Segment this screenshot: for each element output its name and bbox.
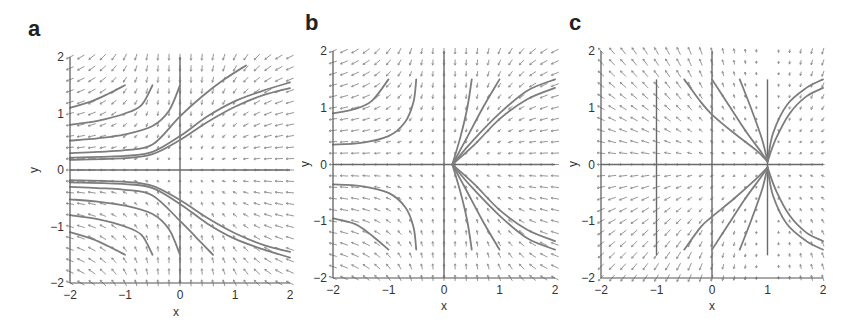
- field-arrow: [386, 253, 390, 258]
- y-tick-label: 1: [320, 101, 327, 115]
- field-arrow: [276, 55, 283, 59]
- y-tick-label: −2: [581, 271, 595, 285]
- field-arrow: [620, 230, 626, 235]
- field-arrow: [363, 72, 370, 76]
- trajectory-curve: [452, 165, 499, 250]
- field-arrow: [112, 269, 116, 275]
- field-arrow: [375, 264, 381, 269]
- field-arrow: [363, 49, 369, 54]
- field-arrow: [89, 258, 96, 262]
- panel-b: b x y −2−1012−2−1012: [298, 10, 559, 313]
- field-arrow: [666, 263, 670, 270]
- field-arrow: [244, 77, 249, 82]
- y-tick-label: −2: [313, 271, 327, 285]
- field-arrow: [676, 94, 681, 100]
- field-arrow: [100, 89, 106, 93]
- field-arrow: [519, 253, 524, 258]
- field-arrow: [100, 77, 106, 82]
- field-arrow: [363, 60, 370, 64]
- y-tick-label: 0: [588, 158, 595, 172]
- field-arrow: [244, 89, 249, 93]
- field-arrow: [530, 48, 536, 53]
- field-arrow: [244, 54, 248, 60]
- field-arrow: [265, 258, 272, 262]
- field-arrow: [519, 60, 524, 65]
- trajectory-curve: [712, 79, 768, 161]
- field-arrow: [631, 82, 637, 88]
- field-arrow: [642, 105, 648, 110]
- field-arrow: [265, 55, 271, 60]
- panel-label: b: [305, 10, 318, 35]
- field-arrow: [643, 48, 647, 55]
- y-tick-label: 0: [57, 163, 64, 177]
- y-tick-label: 2: [588, 44, 595, 58]
- x-tick-label: −2: [63, 288, 77, 302]
- y-tick-label: 0: [320, 158, 327, 172]
- field-arrow: [631, 94, 637, 99]
- field-arrow: [676, 219, 681, 224]
- field-arrow: [620, 94, 626, 99]
- panel-c: c x y −2−1012−2−1012: [566, 10, 827, 313]
- field-arrow: [519, 71, 524, 76]
- field-arrow: [89, 269, 96, 274]
- field-arrow: [676, 241, 681, 248]
- field-arrow: [609, 253, 615, 259]
- field-arrow: [620, 219, 627, 223]
- panel-label: c: [569, 10, 581, 35]
- field-arrow: [654, 71, 659, 77]
- field-arrow: [112, 54, 116, 60]
- x-axis-label: x: [441, 299, 447, 313]
- field-arrow: [642, 219, 648, 224]
- field-arrow: [631, 241, 637, 247]
- field-arrow: [265, 269, 272, 274]
- x-tick-label: 0: [709, 283, 716, 297]
- trajectory-curve: [452, 88, 555, 165]
- field-arrow: [676, 105, 681, 110]
- trajectory-curve: [70, 85, 125, 108]
- y-tick-label: −1: [581, 214, 595, 228]
- field-arrow: [519, 48, 524, 53]
- field-arrow: [254, 269, 260, 274]
- panel-a: a x y −2−1012−2−1012: [27, 16, 294, 319]
- field-arrow: [620, 252, 626, 258]
- field-arrow: [665, 117, 671, 121]
- field-arrow: [621, 264, 626, 270]
- y-tick-label: 1: [588, 101, 595, 115]
- field-arrow: [609, 71, 615, 77]
- field-arrow: [677, 252, 681, 259]
- x-tick-label: −2: [594, 283, 608, 297]
- y-tick-label: 2: [57, 50, 64, 64]
- field-arrow: [375, 253, 381, 257]
- field-arrow: [386, 71, 390, 76]
- trajectory-curve: [70, 187, 213, 255]
- x-tick-label: 1: [232, 288, 239, 302]
- field-arrow: [654, 59, 658, 66]
- field-arrow: [621, 59, 626, 65]
- x-tick-label: −1: [650, 283, 664, 297]
- field-arrow: [643, 241, 648, 247]
- field-arrow: [620, 106, 627, 110]
- field-arrow: [642, 94, 648, 99]
- x-axis-label: x: [709, 299, 715, 313]
- field-arrow: [78, 55, 85, 59]
- field-arrow: [112, 258, 117, 263]
- field-arrow: [352, 49, 359, 53]
- field-arrow: [609, 241, 615, 246]
- field-arrow: [642, 117, 649, 121]
- field-arrow: [643, 252, 648, 258]
- field-arrow: [265, 77, 272, 81]
- y-tick-label: 2: [320, 44, 327, 58]
- field-arrow: [665, 241, 670, 247]
- field-arrow: [620, 82, 626, 87]
- x-axis-label: x: [173, 305, 179, 319]
- field-arrow: [677, 70, 681, 77]
- field-arrow: [386, 60, 390, 65]
- field-arrow: [609, 264, 614, 270]
- field-arrow: [100, 258, 106, 263]
- field-arrow: [540, 60, 547, 64]
- x-tick-label: 1: [764, 283, 771, 297]
- x-tick-label: −1: [382, 283, 396, 297]
- y-tick-label: −2: [50, 276, 64, 290]
- field-arrow: [632, 264, 637, 270]
- field-arrow: [631, 230, 637, 235]
